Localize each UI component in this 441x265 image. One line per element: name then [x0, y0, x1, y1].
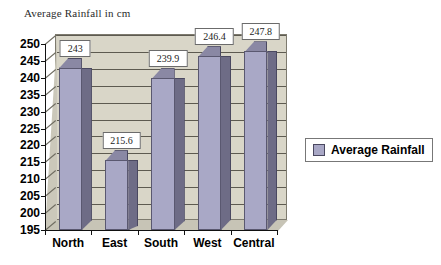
- y-axis-tick: [41, 78, 46, 79]
- bar-side-face: [221, 56, 231, 230]
- chart-title: Average Rainfall in cm: [24, 7, 131, 19]
- x-axis-tick: [45, 230, 46, 235]
- bar-front-face: [151, 78, 174, 230]
- x-axis: [45, 230, 278, 231]
- bar-north[interactable]: [59, 68, 82, 230]
- bar-front-face: [105, 160, 128, 230]
- y-axis-tick: [41, 129, 46, 130]
- x-label-east: East: [102, 236, 127, 250]
- x-axis-tick: [138, 230, 139, 235]
- chart-legend[interactable]: Average Rainfall: [305, 138, 433, 162]
- y-axis-tick: [41, 162, 46, 163]
- bar-side-face: [175, 78, 185, 230]
- x-axis-tick: [184, 230, 185, 235]
- x-label-central: Central: [233, 236, 274, 250]
- y-axis-tick: [41, 213, 46, 214]
- bar-side-face: [82, 68, 92, 230]
- y-axis-tick-label: 245: [20, 54, 40, 68]
- y-axis-tick-label: 230: [20, 105, 40, 119]
- bar-front-face: [244, 51, 267, 230]
- bar-side-face: [267, 51, 277, 230]
- y-axis-tick-label: 200: [20, 206, 40, 220]
- y-axis-tick: [41, 112, 46, 113]
- y-axis-tick: [41, 145, 46, 146]
- y-axis-tick: [41, 44, 46, 45]
- y-axis-tick-label: 240: [20, 71, 40, 85]
- data-label-west: 246.4: [195, 28, 234, 45]
- data-label-north: 243: [60, 40, 91, 57]
- x-label-north: North: [52, 236, 84, 250]
- bar-west[interactable]: [198, 56, 221, 230]
- bar-front-face: [198, 56, 221, 230]
- bar-south[interactable]: [151, 78, 174, 230]
- legend-label: Average Rainfall: [331, 143, 425, 157]
- data-label-east: 215.6: [102, 132, 141, 149]
- bars-layer: [45, 44, 277, 230]
- y-axis: 195200205210215220225230235240245250: [45, 44, 46, 231]
- plot-area: [45, 44, 277, 230]
- y-axis-tick-label: 205: [20, 189, 40, 203]
- y-axis-tick-label: 250: [20, 37, 40, 51]
- y-axis-tick: [41, 179, 46, 180]
- x-axis-tick: [91, 230, 92, 235]
- y-axis-tick-label: 215: [20, 155, 40, 169]
- y-axis-tick: [41, 95, 46, 96]
- y-axis-tick-label: 235: [20, 88, 40, 102]
- data-label-central: 247.8: [242, 23, 281, 40]
- y-axis-tick-label: 220: [20, 138, 40, 152]
- bar-side-face: [128, 160, 138, 230]
- bar-front-face: [59, 68, 82, 230]
- y-axis-tick-label: 225: [20, 122, 40, 136]
- x-label-south: South: [144, 236, 178, 250]
- y-axis-tick: [41, 196, 46, 197]
- x-axis-tick: [231, 230, 232, 235]
- y-axis-tick: [41, 61, 46, 62]
- chart-container: Average Rainfall in cm 19520020521021522…: [0, 0, 441, 265]
- y-axis-tick-label: 195: [20, 223, 40, 237]
- x-label-west: West: [193, 236, 221, 250]
- y-axis-tick-label: 210: [20, 172, 40, 186]
- data-label-south: 239.9: [149, 50, 188, 67]
- x-axis-tick: [277, 230, 278, 235]
- bar-east[interactable]: [105, 160, 128, 230]
- legend-swatch-icon: [313, 144, 325, 156]
- bar-central[interactable]: [244, 51, 267, 230]
